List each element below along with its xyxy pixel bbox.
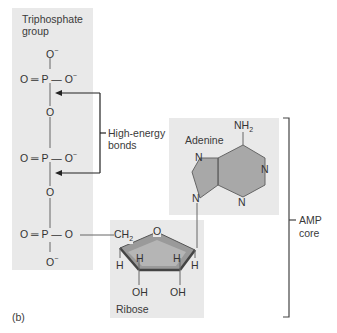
amp-label-line2: core	[299, 227, 319, 239]
atom-ch2: CH2	[114, 229, 133, 244]
atom-ring-o: O	[153, 226, 161, 237]
atom-nh2: NH2	[234, 120, 253, 135]
atom-o-minus-bottom: O−	[46, 253, 58, 268]
amp-label-line1: AMP	[299, 214, 322, 226]
panel-label: (b)	[12, 311, 25, 323]
atom-o-bridge-1: O	[46, 107, 54, 118]
atom-h-c1: H	[191, 260, 199, 271]
atom-h-c3: H	[136, 253, 144, 264]
high-energy-label-line2: bonds	[108, 139, 137, 151]
triphosphate-label-line2: group	[22, 25, 49, 37]
atom-n3: N	[238, 197, 246, 208]
triphosphate-label-line1: Triphosphate	[22, 13, 83, 25]
high-energy-label-line1: High-energy	[108, 127, 165, 139]
atom-o-bridge-2: O	[46, 187, 54, 198]
adenine-label: Adenine	[185, 134, 224, 146]
ribose-label: Ribose	[116, 303, 149, 315]
phosphate-row-3: O ═ P — O	[20, 229, 73, 240]
atom-oh-c2: OH	[170, 287, 186, 298]
atom-n7: N	[195, 152, 203, 163]
atom-n9: N	[192, 193, 200, 204]
phosphate-row-2: O ═ P — O−	[20, 149, 77, 164]
atom-o-minus-top: O−	[46, 45, 58, 60]
atom-n1: N	[261, 164, 269, 175]
phosphate-row-1: O ═ P — O−	[20, 70, 77, 85]
atom-oh-c3: OH	[132, 287, 148, 298]
atom-h-c4: H	[116, 260, 124, 271]
atom-h-c2: H	[173, 253, 181, 264]
